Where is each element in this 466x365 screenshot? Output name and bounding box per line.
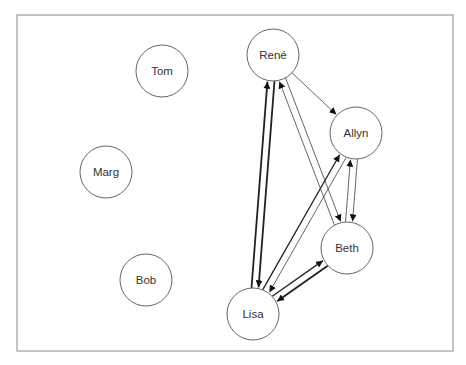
node-label: Lisa <box>242 308 264 320</box>
node-label: Beth <box>335 242 359 254</box>
node-label: René <box>259 49 287 61</box>
node-bob[interactable]: Bob <box>120 254 172 306</box>
node-allyn[interactable]: Allyn <box>330 107 382 159</box>
node-marg[interactable]: Marg <box>80 146 132 198</box>
node-rene[interactable]: René <box>247 29 299 81</box>
node-tom[interactable]: Tom <box>136 45 188 97</box>
node-beth[interactable]: Beth <box>321 222 373 274</box>
node-label: Allyn <box>344 127 369 139</box>
node-label: Tom <box>151 65 173 77</box>
node-label: Bob <box>136 274 156 286</box>
network-diagram: Tom Marg Bob René Allyn Beth Lisa <box>0 0 466 365</box>
node-lisa[interactable]: Lisa <box>227 288 279 340</box>
node-label: Marg <box>93 166 119 178</box>
